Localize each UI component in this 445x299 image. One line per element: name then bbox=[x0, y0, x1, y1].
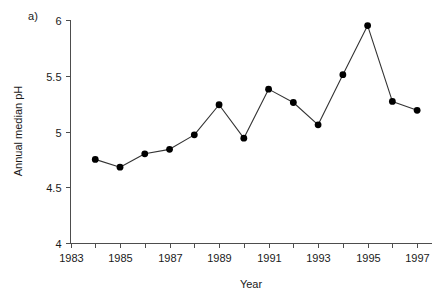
y-tick-label: 5 bbox=[55, 127, 61, 139]
data-point: 1990: 4.94 bbox=[240, 135, 247, 142]
y-axis-title: Annual median pH bbox=[12, 86, 24, 177]
x-tick-label: 1991 bbox=[257, 252, 281, 264]
y-axis-ticks bbox=[66, 21, 71, 244]
x-tick-label: 1993 bbox=[306, 252, 330, 264]
data-point: 1993: 5.06 bbox=[315, 121, 322, 128]
y-tick-label: 6 bbox=[55, 15, 61, 27]
chart-figure: a) 44.555.56 198319851987198919911993199… bbox=[0, 0, 445, 299]
data-point: 1994: 5.51 bbox=[339, 71, 346, 78]
data-point: 1986: 4.8 bbox=[141, 150, 148, 157]
x-tick-label: 1983 bbox=[59, 252, 83, 264]
x-tick-label: 1997 bbox=[405, 252, 429, 264]
x-tick-label: 1987 bbox=[158, 252, 182, 264]
data-point: 1984: 4.75 bbox=[92, 156, 99, 163]
data-point: 1991: 5.38 bbox=[265, 86, 272, 93]
data-point: 1987: 4.84 bbox=[166, 146, 173, 153]
x-axis-tick-labels: 19831985198719891991199319951997 bbox=[59, 252, 429, 264]
data-point: 1997: 5.19 bbox=[414, 107, 421, 114]
x-tick-label: 1995 bbox=[356, 252, 380, 264]
data-point: 1989: 5.24 bbox=[216, 101, 223, 108]
series-line-annual-median-ph bbox=[95, 26, 417, 168]
data-point: 1996: 5.27 bbox=[389, 98, 396, 105]
line-chart-plot: 44.555.56 198319851987198919911993199519… bbox=[0, 0, 445, 299]
data-point: 1985: 4.68 bbox=[117, 164, 124, 171]
x-axis-title: Year bbox=[240, 278, 263, 290]
data-point: 1995: 5.95 bbox=[364, 22, 371, 29]
data-point: 1988: 4.97 bbox=[191, 131, 198, 138]
x-tick-label: 1989 bbox=[207, 252, 231, 264]
y-tick-label: 4 bbox=[55, 238, 61, 250]
y-axis-tick-labels: 44.555.56 bbox=[46, 15, 61, 250]
y-tick-label: 4.5 bbox=[46, 182, 61, 194]
x-tick-label: 1985 bbox=[108, 252, 132, 264]
data-point: 1992: 5.26 bbox=[290, 99, 297, 106]
y-tick-label: 5.5 bbox=[46, 71, 61, 83]
series-markers: 1984: 4.751985: 4.681986: 4.81987: 4.841… bbox=[92, 22, 421, 170]
